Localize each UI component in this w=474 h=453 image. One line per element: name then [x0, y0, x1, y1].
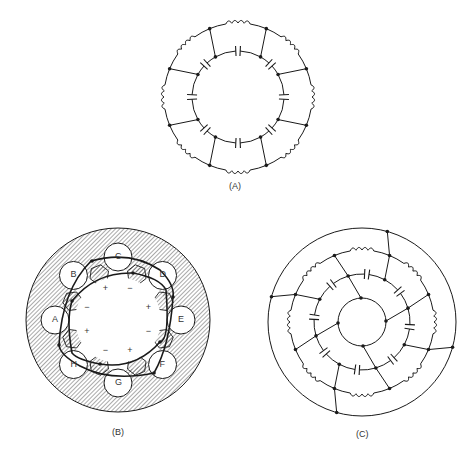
slot-label-f: F [160, 359, 166, 369]
polarity-mark: − [103, 345, 108, 355]
slot-label-e: E [178, 314, 184, 324]
polarity-mark: + [103, 283, 108, 293]
slot-label-c: C [115, 251, 122, 261]
slot-label-h: H [70, 359, 77, 369]
polarity-mark: − [146, 326, 151, 336]
slot-label-d: D [160, 269, 167, 279]
polarity-mark: + [146, 302, 151, 312]
slot-label-a: A [52, 314, 58, 324]
caption-a: (A) [229, 181, 241, 191]
slot-label-g: G [115, 377, 122, 387]
caption-c: (C) [356, 429, 369, 439]
slot-label-b: B [70, 269, 76, 279]
polarity-mark: + [127, 345, 132, 355]
polarity-mark: − [84, 302, 89, 312]
polarity-mark: − [127, 283, 132, 293]
diagram-c [268, 228, 456, 416]
diagram-a [161, 20, 314, 173]
caption-b: (B) [112, 427, 124, 437]
figure-canvas [0, 0, 474, 453]
polarity-mark: + [84, 326, 89, 336]
